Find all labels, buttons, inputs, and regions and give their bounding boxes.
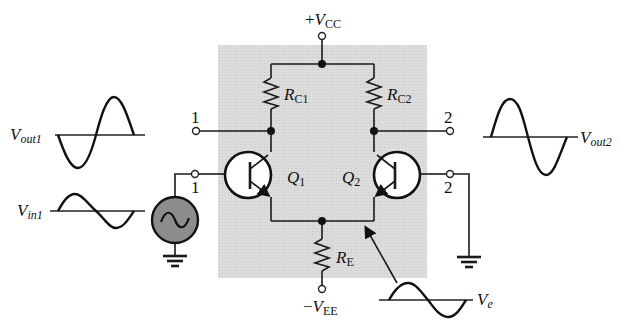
output-terminal-2 xyxy=(447,128,454,135)
output-terminal-1 xyxy=(193,128,200,135)
svg-text:Vout2: Vout2 xyxy=(580,128,612,149)
svg-text:−VEE: −VEE xyxy=(303,297,338,318)
ve-waveform: Ve xyxy=(379,283,493,317)
ac-source-icon xyxy=(152,197,198,266)
svg-text:1: 1 xyxy=(191,178,200,197)
svg-text:Ve: Ve xyxy=(477,290,493,311)
differential-amplifier-diagram: +VCC RC1 RC2 1 2 Q1 xyxy=(0,0,627,331)
svg-text:1: 1 xyxy=(191,108,200,127)
svg-text:2: 2 xyxy=(444,178,453,197)
vin1-waveform: Vin1 xyxy=(17,194,145,228)
vout2-waveform: Vout2 xyxy=(483,99,612,175)
ground-icon xyxy=(457,257,481,267)
svg-text:+VCC: +VCC xyxy=(305,10,341,31)
input-terminal-1 xyxy=(192,171,199,178)
svg-text:Vin1: Vin1 xyxy=(17,201,43,222)
vee-terminal: −VEE xyxy=(303,286,338,319)
vout1-waveform: Vout1 xyxy=(10,97,145,168)
svg-text:Vout1: Vout1 xyxy=(10,125,42,146)
input-terminal-2 xyxy=(447,171,454,178)
svg-text:2: 2 xyxy=(444,108,453,127)
